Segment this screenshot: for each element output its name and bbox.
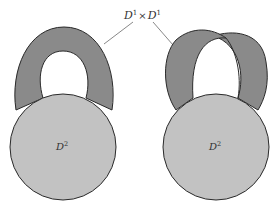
handle-attachment-diagram: D1×D1 D2 D2	[0, 0, 278, 214]
product-label: D1×D1	[123, 9, 161, 22]
left-handlebody: D2	[10, 27, 116, 200]
leader-line-left	[104, 22, 133, 44]
leader-line-right	[153, 22, 173, 45]
right-handlebody: D2	[163, 30, 269, 200]
